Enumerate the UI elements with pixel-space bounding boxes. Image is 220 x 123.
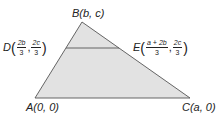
- label-d-close-paren: ): [42, 40, 47, 56]
- label-e-x-denominator: 3: [155, 48, 159, 56]
- label-e-y-fraction: 2c3: [173, 39, 182, 56]
- label-e-y-denominator: 3: [176, 48, 180, 56]
- label-e: E(a + 2b3,2c3): [133, 39, 188, 56]
- label-b: B(b, c): [72, 8, 104, 19]
- label-b-text: B(b, c): [72, 7, 104, 19]
- label-d-open-paren: (: [11, 40, 16, 56]
- label-a: A(0, 0): [26, 102, 59, 113]
- triangle-abc: [35, 22, 190, 98]
- label-e-comma: ,: [169, 41, 172, 53]
- label-e-x-numerator: a + 2b: [146, 39, 168, 48]
- label-d-comma: ,: [27, 41, 30, 53]
- label-e-close-paren: ): [183, 40, 188, 56]
- label-d: D(2b3,2c3): [3, 39, 47, 56]
- label-c-text: C(a, 0): [182, 101, 216, 113]
- label-e-x-fraction: a + 2b3: [146, 39, 168, 56]
- label-d-y-numerator: 2c: [31, 39, 40, 48]
- label-d-name: D: [3, 41, 11, 53]
- label-d-x-numerator: 2b: [17, 39, 27, 48]
- label-a-text: A(0, 0): [26, 101, 59, 113]
- label-c: C(a, 0): [182, 102, 216, 113]
- label-d-y-fraction: 2c3: [31, 39, 40, 56]
- label-e-y-numerator: 2c: [173, 39, 182, 48]
- label-d-y-denominator: 3: [34, 48, 38, 56]
- label-d-x-fraction: 2b3: [17, 39, 27, 56]
- label-e-open-paren: (: [140, 40, 145, 56]
- label-d-x-denominator: 3: [20, 48, 24, 56]
